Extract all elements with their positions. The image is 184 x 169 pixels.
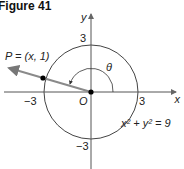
tick-pos-y: 3 xyxy=(80,32,86,44)
y-axis-label: y xyxy=(80,11,88,23)
tick-neg-x: −3 xyxy=(24,95,37,107)
point-p-label: P = (x, 1) xyxy=(5,50,50,62)
origin-label: O xyxy=(79,95,88,107)
x-axis-label: x xyxy=(174,93,181,105)
unit-circle-diagram: Figure 41 x y 3 −3 3 −3 O P = (x, 1) θ x… xyxy=(0,0,184,169)
figure-41: Figure 41 x y 3 −3 3 −3 O P = (x, 1) θ x… xyxy=(0,0,184,169)
equation-label: x² + y² = 9 xyxy=(120,117,171,129)
theta-label: θ xyxy=(106,61,112,73)
tick-neg-y: −3 xyxy=(76,140,89,152)
point-p xyxy=(40,75,45,80)
origin-point xyxy=(88,89,93,94)
tick-pos-x: 3 xyxy=(139,95,145,107)
terminal-side-ray xyxy=(9,68,91,92)
figure-title: Figure 41 xyxy=(0,0,52,13)
